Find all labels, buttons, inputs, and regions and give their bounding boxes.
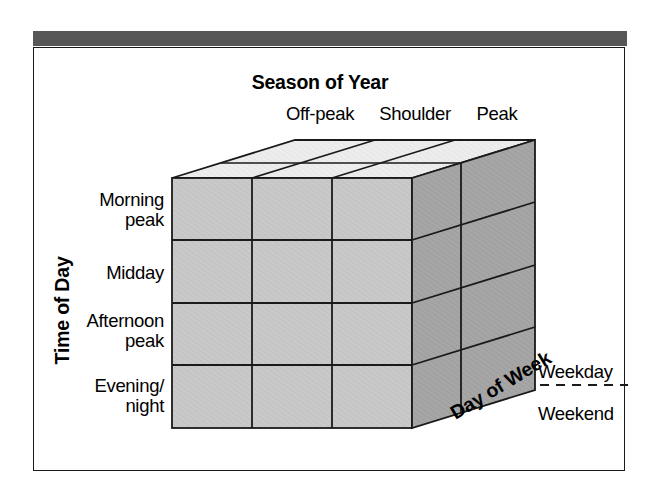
- season-tick-off-peak: Off-peak: [286, 104, 354, 124]
- time-tick-evening-night: Evening/ night: [94, 376, 164, 416]
- time-of-day-axis-title: Time of Day: [52, 230, 73, 390]
- season-tick-shoulder: Shoulder: [379, 104, 451, 124]
- time-tick-midday: Midday: [106, 263, 164, 283]
- day-of-week-tick-weekend: Weekend: [538, 404, 614, 424]
- season-of-year-axis-title: Season of Year: [252, 72, 389, 93]
- season-tick-peak: Peak: [477, 104, 518, 124]
- cube-front-face: [172, 178, 412, 428]
- time-tick-morning-peak: Morning peak: [99, 190, 164, 230]
- figure-root: Season of Year Off-peak Shoulder Peak Ti…: [0, 0, 657, 493]
- time-tick-afternoon-peak: Afternoon peak: [86, 311, 164, 351]
- day-of-week-tick-weekday: Weekday: [538, 362, 613, 382]
